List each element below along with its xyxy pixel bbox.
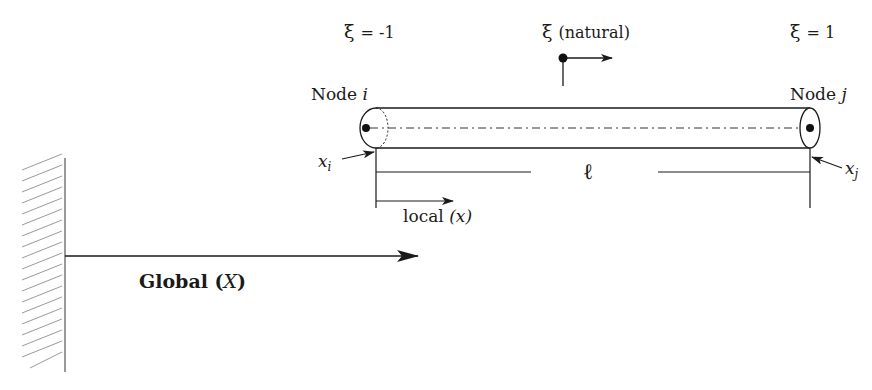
node-j-label: Node j [790, 86, 847, 103]
local-axis-label: local (x) [403, 208, 472, 225]
xi-coordinate-label: xi [318, 153, 331, 173]
length-label: ℓ [584, 160, 592, 182]
fixed-wall-support [22, 154, 65, 372]
node-j-dot [806, 124, 814, 132]
global-axis-label: Global (X) [139, 272, 246, 291]
node-i-label: Node i [311, 86, 368, 103]
xj-pointer-arrow [812, 157, 842, 168]
xi-minus-one-label: ξ = -1 [344, 22, 395, 41]
natural-axis [559, 54, 613, 87]
xi-pointer-arrow [342, 152, 374, 159]
xi-symbol: ξ [790, 20, 800, 42]
xi-symbol: ξ [344, 20, 354, 42]
beam-element [360, 108, 820, 148]
node-i-dot [362, 124, 370, 132]
xj-coordinate-label: xj [845, 160, 858, 180]
xi-natural-label: ξ (natural) [542, 22, 630, 41]
xi-plus-one-label: ξ = 1 [790, 22, 835, 41]
finite-element-beam-diagram: ξ = -1 ξ (natural) ξ = 1 Node i Node j x… [0, 0, 872, 390]
xi-symbol: ξ [542, 20, 552, 42]
